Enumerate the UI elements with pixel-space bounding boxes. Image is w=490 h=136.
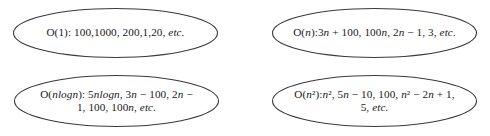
ellipse-label-onlogn: O(nlogn): 5nlogn, 3n − 100, 2n − 1, 100,… [13,74,220,128]
ellipse-line: 1, 100, 100n, etc. [77,101,156,114]
ellipse-line: 5, etc. [361,101,389,114]
ellipse-label-on2: O(n²):n², 5n − 10, 100, n² − 2n + 1, 5, … [271,74,478,128]
ellipse-label-o1: O(1): 100,1000, 200,1,20, etc. [12,7,219,59]
ellipse-node-on2: O(n²):n², 5n − 10, 100, n² − 2n + 1, 5, … [271,74,478,128]
ellipse-line: O(n²):n², 5n − 10, 100, n² − 2n + 1, [294,88,454,101]
ellipse-node-o1: O(1): 100,1000, 200,1,20, etc. [12,7,219,59]
ellipse-line: O(n):3n + 100, 100n, 2n − 1, 3, etc. [293,26,456,39]
ellipse-label-on: O(n):3n + 100, 100n, 2n − 1, 3, etc. [271,7,478,59]
diagram-canvas: O(1): 100,1000, 200,1,20, etc. O(n):3n +… [0,0,490,136]
ellipse-line: O(nlogn): 5nlogn, 3n − 100, 2n − [40,88,193,101]
ellipse-node-on: O(n):3n + 100, 100n, 2n − 1, 3, etc. [271,7,478,59]
ellipse-line: O(1): 100,1000, 200,1,20, etc. [46,26,184,39]
ellipse-node-onlogn: O(nlogn): 5nlogn, 3n − 100, 2n − 1, 100,… [13,74,220,128]
